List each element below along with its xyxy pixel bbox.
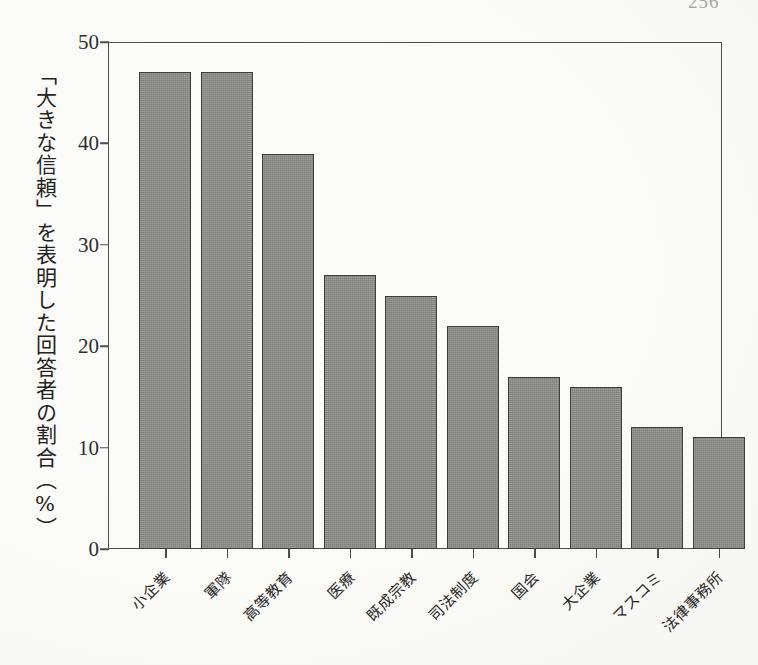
- x-tick-mark: [227, 549, 229, 558]
- x-tick-mark: [596, 549, 598, 558]
- x-tick-mark: [350, 549, 352, 558]
- x-axis-label: 既成宗教: [361, 566, 420, 625]
- plot-area: [108, 42, 722, 549]
- y-axis-tick-marks: [0, 42, 110, 549]
- x-tick-mark: [288, 549, 290, 558]
- x-tick-mark: [719, 549, 721, 558]
- bar: [570, 387, 622, 549]
- chart-page: 256 「大きな信頼」を表明した回答者の割合（%） 01020304050 小企…: [0, 0, 758, 665]
- bar: [385, 296, 437, 550]
- x-tick-mark: [473, 549, 475, 558]
- x-tick-mark: [165, 549, 167, 558]
- x-axis-label: 医療: [322, 566, 359, 603]
- bar: [139, 72, 191, 549]
- bar: [201, 72, 253, 549]
- x-axis-label: マスコミ: [607, 566, 666, 625]
- bar: [631, 427, 683, 549]
- x-axis-label: 小企業: [126, 566, 174, 614]
- x-axis-label: 法律事務所: [657, 566, 727, 636]
- x-tick-mark: [534, 549, 536, 558]
- x-axis-label: 国会: [506, 566, 543, 603]
- bar: [324, 275, 376, 549]
- x-axis-label: 司法制度: [423, 566, 482, 625]
- x-axis-label: 軍隊: [199, 566, 236, 603]
- page-number: 256: [688, 0, 748, 13]
- bar: [693, 437, 745, 549]
- x-tick-mark: [657, 549, 659, 558]
- x-axis-label: 高等教育: [238, 566, 297, 625]
- x-axis-label: 大企業: [556, 566, 604, 614]
- bar: [508, 377, 560, 549]
- bar: [447, 326, 499, 549]
- x-tick-mark: [411, 549, 413, 558]
- bar: [262, 154, 314, 549]
